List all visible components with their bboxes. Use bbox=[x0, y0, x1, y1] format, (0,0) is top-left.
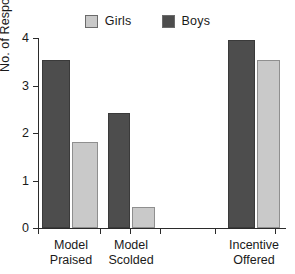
y-axis-line bbox=[38, 38, 39, 228]
x-tick-5 bbox=[275, 228, 276, 234]
x-tick-3 bbox=[160, 228, 161, 234]
bar-boys-model-praised bbox=[42, 60, 70, 228]
x-category-label-model-scolded: Model Scolded bbox=[96, 238, 166, 268]
y-tick-label-0: 0 bbox=[22, 220, 29, 236]
legend-label-girls: Girls bbox=[105, 15, 132, 28]
y-tick-4: 4 bbox=[33, 38, 38, 39]
bar-boys-model-scolded bbox=[108, 113, 130, 228]
legend-item-boys: Boys bbox=[162, 15, 211, 28]
bar-girls-model-scolded bbox=[132, 207, 155, 228]
x-tick-0 bbox=[38, 228, 39, 234]
x-category-label-line-2: Scolded bbox=[96, 253, 166, 268]
legend-label-boys: Boys bbox=[182, 15, 211, 28]
y-tick-label-4: 4 bbox=[22, 30, 29, 46]
bar-boys-incentive-offered bbox=[228, 40, 255, 228]
y-tick-1: 1 bbox=[33, 181, 38, 182]
x-category-label-line-1: Incentive bbox=[219, 238, 289, 253]
y-tick-label-1: 1 bbox=[22, 173, 29, 189]
x-tick-4 bbox=[215, 228, 216, 234]
y-axis-title: No. of Responses bbox=[0, 0, 12, 72]
legend-swatch-girls-icon bbox=[85, 15, 98, 28]
legend-swatch-boys-icon bbox=[162, 15, 175, 28]
x-axis-line bbox=[38, 228, 286, 229]
bar-girls-incentive-offered bbox=[257, 60, 280, 228]
y-tick-2: 2 bbox=[33, 133, 38, 134]
x-tick-2 bbox=[130, 228, 131, 234]
y-tick-label-2: 2 bbox=[22, 125, 29, 141]
bar-girls-model-praised bbox=[72, 142, 98, 228]
x-category-label-incentive-offered: Incentive Offered bbox=[219, 238, 289, 268]
x-category-label-line-2: Offered bbox=[219, 253, 289, 268]
chart-legend: Girls Boys bbox=[0, 10, 295, 32]
bar-chart: Girls Boys 4 3 2 1 0 bbox=[0, 0, 295, 274]
y-tick-label-3: 3 bbox=[22, 78, 29, 94]
legend-item-girls: Girls bbox=[85, 15, 132, 28]
x-category-label-line-1: Model bbox=[96, 238, 166, 253]
x-tick-1 bbox=[100, 228, 101, 234]
plot-area: 4 3 2 1 0 Model Praised bbox=[38, 38, 286, 228]
y-tick-3: 3 bbox=[33, 86, 38, 87]
